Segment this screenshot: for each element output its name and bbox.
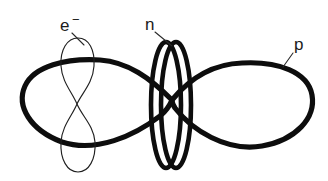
electron-label: e (60, 16, 69, 35)
neutron-label: n (145, 15, 154, 34)
electron-charge-superscript: − (72, 12, 80, 27)
electron-lower-lobe (61, 104, 95, 172)
proton-label: p (294, 35, 303, 54)
proton-label-group: p (283, 35, 303, 67)
proton-loop (22, 60, 312, 147)
electron-label-group: e − (60, 12, 84, 45)
diagram-canvas: e − n p (0, 0, 328, 181)
proton-leader-line (283, 53, 293, 67)
electron-upper-lobe (61, 38, 94, 104)
particle-loop-diagram: e − n p (0, 0, 328, 181)
